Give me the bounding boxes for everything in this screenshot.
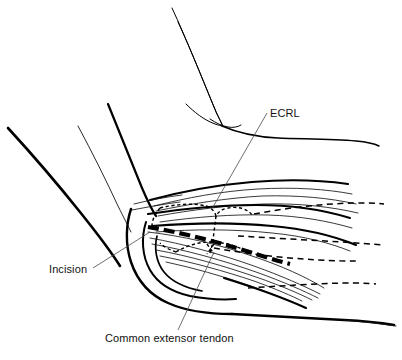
incision-label: Incision <box>49 263 87 275</box>
common-extensor-tendon-label: Common extensor tendon <box>105 332 234 344</box>
anatomy-figure: ECRL Incision Common extensor tendon <box>0 0 402 360</box>
figure-background <box>0 0 402 360</box>
anatomy-illustration-canvas: ECRL Incision Common extensor tendon <box>0 0 402 360</box>
ecrl-label: ECRL <box>270 107 300 119</box>
